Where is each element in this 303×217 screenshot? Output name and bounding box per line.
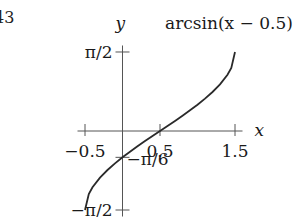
y-tick-label: π/2: [85, 42, 113, 62]
x-tick-label: 1.5: [221, 141, 248, 161]
function-label: arcsin(x − 0.5): [165, 13, 293, 33]
y-tick-label: −π/6: [127, 149, 169, 169]
x-tick-label: −0.5: [64, 141, 105, 161]
x-axis-label: x: [255, 120, 265, 140]
chart-canvas: −0.50.51.5π/2−π/6−π/2 x y arcsin(x − 0.5…: [0, 0, 303, 217]
ticks: −0.50.51.5π/2−π/6−π/2: [64, 42, 248, 217]
y-tick-label: −π/2: [71, 200, 113, 217]
y-axis-label: y: [115, 13, 126, 33]
